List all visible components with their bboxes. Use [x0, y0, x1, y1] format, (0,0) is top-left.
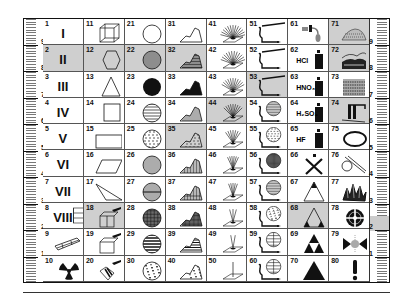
symbol-cell-40: 40	[166, 256, 207, 282]
cell-number: 62	[290, 46, 298, 54]
symbol-cell-41: 41	[207, 19, 248, 45]
symbol-cell-55: 55	[247, 124, 288, 150]
cell-number: 58	[249, 204, 257, 212]
cell-number: 30	[127, 257, 135, 265]
ruler-major-tick	[24, 257, 38, 258]
cell-number: 70	[290, 257, 298, 265]
cell-number: 67	[290, 178, 298, 186]
symbol-cell-78: 78	[329, 203, 370, 229]
symbol-cell-23: 23	[125, 72, 166, 98]
ruler-major-tick	[24, 177, 38, 178]
symbol-cell-21: 21	[125, 19, 166, 45]
ruler-mark-label: 4	[369, 170, 373, 177]
roman-numeral: VII	[43, 184, 83, 199]
symbol-cell-22: 22	[125, 45, 166, 71]
cell-number: 57	[249, 178, 257, 186]
chemical-label: HF	[296, 136, 305, 143]
symbol-cell-5: 5V	[43, 124, 84, 150]
symbol-cell-27: 27	[125, 177, 166, 203]
symbol-cell-46: 46	[207, 150, 248, 176]
cell-number: 78	[331, 204, 339, 212]
symbol-cell-34: 34	[166, 98, 207, 124]
symbol-cell-7: 7VII	[43, 177, 84, 203]
ruler-major-tick	[24, 124, 38, 125]
cell-number: 50	[209, 257, 217, 265]
ruler-mark-label: 8	[369, 64, 373, 71]
cell-number: 28	[127, 204, 135, 212]
bottom-divider	[23, 292, 390, 293]
symbol-cell-38: 38	[166, 203, 207, 229]
symbol-cell-49: 49	[207, 229, 248, 255]
cell-number: 42	[209, 46, 217, 54]
symbol-cell-15: 15	[84, 124, 125, 150]
symbol-cell-52: 52	[247, 45, 288, 71]
cell-number: 80	[331, 257, 339, 265]
symbol-cell-74: 74	[329, 98, 370, 124]
ruler-mark-label: 7	[369, 91, 373, 98]
ruler-mark-label: 5	[369, 144, 373, 151]
cell-number: 77	[331, 178, 339, 186]
cell-number: 76	[331, 151, 339, 159]
symbol-cell-58: 58	[247, 203, 288, 229]
cell-number: 35	[168, 125, 176, 133]
symbol-cell-56: 56	[247, 150, 288, 176]
cell-number: 44	[209, 99, 217, 107]
symbol-cell-53: 53	[247, 72, 288, 98]
cell-number: 22	[127, 46, 135, 54]
roman-numeral: VI	[43, 157, 83, 172]
symbol-cell-30: 30	[125, 256, 166, 282]
symbol-cell-66: 66	[288, 150, 329, 176]
symbol-cell-26: 26	[125, 150, 166, 176]
symbol-cell-8: 8VIII	[43, 203, 84, 229]
cell-number: 19	[86, 230, 94, 238]
symbol-cell-76: 76	[329, 150, 370, 176]
symbol-cell-71: 71	[329, 19, 370, 45]
cell-number: 41	[209, 20, 217, 28]
cell-number: 51	[249, 20, 257, 28]
symbol-cell-47: 47	[207, 177, 248, 203]
chemical-label: HCl	[296, 57, 308, 64]
symbol-cell-45: 45	[207, 124, 248, 150]
cell-number: 33	[168, 73, 176, 81]
cell-number: 13	[86, 73, 94, 81]
roman-numeral: IV	[43, 105, 83, 120]
symbol-cell-28: 28	[125, 203, 166, 229]
symbol-cell-36: 36	[166, 150, 207, 176]
symbol-cell-57: 57	[247, 177, 288, 203]
ruler-major-tick	[375, 257, 389, 258]
cell-number: 32	[168, 46, 176, 54]
cell-number: 60	[249, 257, 257, 265]
ruler-major-tick	[24, 204, 38, 205]
symbol-cell-20: 20	[84, 256, 125, 282]
symbol-cell-11: 11	[84, 19, 125, 45]
symbol-cell-77: 77	[329, 177, 370, 203]
cell-number: 27	[127, 178, 135, 186]
symbol-cell-62: 62HCl	[288, 45, 329, 71]
cell-number: 37	[168, 178, 176, 186]
cell-number: 53	[249, 73, 257, 81]
ruler-major-tick	[375, 45, 389, 46]
symbol-cell-1: 1I	[43, 19, 84, 45]
cell-number: 34	[168, 99, 176, 107]
symbol-cell-79: 79	[329, 229, 370, 255]
symbol-cell-73: 73	[329, 72, 370, 98]
symbol-cell-17: 17	[84, 177, 125, 203]
symbol-cell-19: 19	[84, 229, 125, 255]
symbol-cell-54: 54	[247, 98, 288, 124]
symbol-cell-32: 32	[166, 45, 207, 71]
symbol-cell-80: 80	[329, 256, 370, 282]
cell-number: 47	[209, 178, 217, 186]
cell-number: 54	[249, 99, 257, 107]
cell-number: 18	[86, 204, 94, 212]
cell-number: 9	[45, 230, 49, 238]
symbol-cell-39: 39	[166, 229, 207, 255]
symbol-cell-68: 68	[288, 203, 329, 229]
cell-number: 48	[209, 204, 217, 212]
symbol-cell-10: 10	[43, 256, 84, 282]
symbol-grid: 1I112131415161712II122232425262HCl723III…	[43, 19, 370, 282]
symbol-cell-25: 25	[125, 124, 166, 150]
symbol-cell-33: 33	[166, 72, 207, 98]
symbol-cell-37: 37	[166, 177, 207, 203]
symbol-cell-4: 4IV	[43, 98, 84, 124]
cell-number: 65	[290, 125, 298, 133]
